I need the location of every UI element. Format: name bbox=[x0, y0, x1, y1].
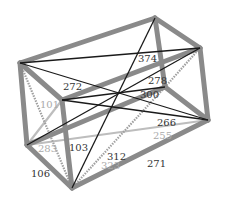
length-label: 300 bbox=[140, 89, 159, 100]
length-labels: 374272278300101266255103283312323271106 bbox=[31, 53, 176, 179]
edge-CD bbox=[62, 48, 200, 100]
length-label: 106 bbox=[31, 168, 50, 179]
edge-BC bbox=[155, 18, 200, 48]
length-label: 272 bbox=[63, 81, 82, 92]
length-label: 283 bbox=[38, 143, 57, 154]
length-label: 103 bbox=[69, 142, 88, 153]
length-label: 278 bbox=[148, 75, 167, 86]
length-label: 255 bbox=[153, 130, 172, 141]
length-label: 271 bbox=[147, 158, 166, 169]
length-label: 266 bbox=[157, 117, 176, 128]
length-label: 374 bbox=[138, 53, 157, 64]
edge-CG bbox=[200, 48, 208, 120]
length-label: 101 bbox=[40, 99, 59, 110]
edge-DA bbox=[20, 63, 62, 100]
edge-AB bbox=[20, 18, 155, 63]
length-label: 323 bbox=[101, 160, 120, 171]
box-diagram: 374272278300101266255103283312323271106 bbox=[0, 0, 228, 210]
